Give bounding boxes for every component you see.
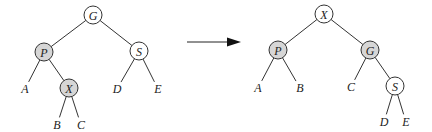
- right-tree-after-rotation: XPGSABCDE: [253, 5, 410, 129]
- transform-arrow: [187, 38, 241, 47]
- right-subtree-b: B: [296, 81, 304, 95]
- right-node-g: G: [361, 41, 379, 59]
- left-subtree-d: D: [112, 82, 122, 96]
- tree-rotation-diagram: GPSXABCDE XPGSABCDE: [0, 0, 432, 132]
- right-edge-p-b: [283, 58, 296, 81]
- left-node-x: X: [60, 79, 78, 97]
- left-node-g: G: [84, 6, 102, 24]
- left-edge-p-x: [49, 59, 64, 80]
- left-edge-x-c: [72, 97, 79, 118]
- diagram-svg: GPSXABCDE XPGSABCDE: [0, 0, 432, 132]
- left-subtree-a: A: [20, 82, 29, 96]
- left-edge-s-e: [143, 59, 154, 82]
- left-edge-x-b: [59, 97, 66, 118]
- node-label: G: [89, 9, 98, 23]
- node-label: P: [273, 44, 282, 58]
- left-subtree-e: E: [153, 82, 162, 96]
- right-node-p: P: [269, 41, 287, 59]
- node-label: S: [136, 45, 142, 59]
- left-edge-s-d: [121, 59, 134, 82]
- left-tree-before-rotation: GPSXABCDE: [20, 6, 162, 132]
- right-edge-x-g: [331, 20, 363, 45]
- node-label: G: [366, 44, 375, 58]
- right-edge-g-s: [375, 57, 390, 78]
- left-edge-p-a: [29, 60, 40, 82]
- left-edge-g-p: [51, 20, 86, 46]
- node-label: S: [392, 80, 398, 94]
- left-subtree-c: C: [77, 118, 86, 132]
- right-node-x: X: [315, 5, 333, 23]
- right-edge-s-d: [386, 95, 392, 115]
- right-edge-x-p: [285, 20, 317, 45]
- left-node-p: P: [35, 43, 53, 61]
- right-subtree-a: A: [253, 81, 262, 95]
- right-subtree-e: E: [401, 115, 410, 129]
- left-edge-g-s: [100, 21, 132, 46]
- right-node-s: S: [386, 77, 404, 95]
- right-edge-s-e: [398, 95, 404, 115]
- right-edge-g-c: [355, 58, 366, 80]
- right-edge-p-a: [262, 58, 274, 81]
- node-label: P: [39, 46, 48, 60]
- right-subtree-d: D: [379, 115, 389, 129]
- node-label: X: [64, 82, 73, 96]
- left-subtree-b: B: [53, 118, 61, 132]
- right-subtree-c: C: [347, 80, 356, 94]
- arrow-head-icon: [227, 38, 241, 47]
- left-node-s: S: [130, 42, 148, 60]
- node-label: X: [319, 8, 328, 22]
